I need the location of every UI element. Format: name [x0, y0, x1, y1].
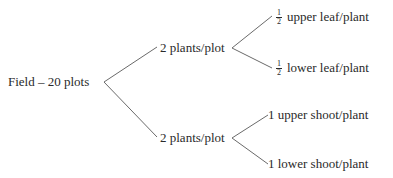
leaf-node-upper-leaf: 1 2 upper leaf/plant — [276, 9, 369, 27]
leaf-node-lower-leaf: 1 2 lower leaf/plant — [276, 60, 369, 78]
edge-root-to-branch-2 — [104, 82, 157, 137]
edge-branch-1-to-lower-leaf — [232, 48, 272, 68]
leaf-node-upper-shoot: 1 upper shoot/plant — [268, 107, 368, 122]
leaf-node-lower-shoot: 1 lower shoot/plant — [268, 156, 368, 171]
root-node: Field – 20 plots — [8, 74, 89, 89]
branch-node-1: 2 plants/plot — [160, 40, 225, 55]
fraction-half: 1 2 — [276, 60, 282, 77]
tree-connectors — [0, 0, 393, 178]
fraction-half: 1 2 — [276, 9, 282, 26]
branch-node-2: 2 plants/plot — [160, 130, 225, 145]
edge-branch-1-to-upper-leaf — [232, 16, 272, 48]
edge-branch-2-to-upper-shoot — [232, 115, 268, 138]
edge-root-to-branch-1 — [104, 47, 157, 82]
edge-branch-2-to-lower-shoot — [232, 138, 268, 164]
